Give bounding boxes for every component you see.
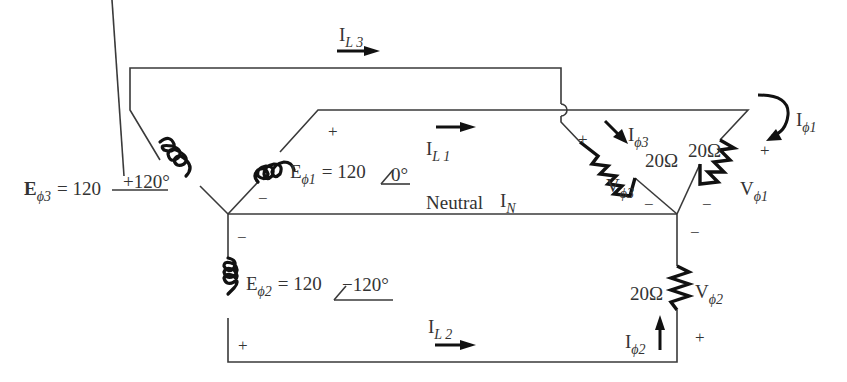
resistor-phi2 [671, 266, 689, 310]
arrow-I-phi2 [655, 315, 665, 350]
svg-text:−120°: −120° [342, 274, 389, 295]
svg-text:−: − [258, 189, 268, 208]
svg-text:Vϕ3: Vϕ3 [606, 175, 634, 201]
svg-text:20Ω: 20Ω [645, 150, 678, 171]
source-coil-phi2 [224, 258, 237, 294]
svg-text:−: − [644, 195, 654, 214]
label-I-N: IN [500, 190, 516, 216]
line-2-wire [228, 310, 677, 362]
svg-text:Eϕ2= 120: Eϕ2= 120 [246, 273, 322, 299]
svg-text:+: + [578, 130, 588, 149]
svg-text:IN: IN [500, 190, 516, 216]
line-3-wire [130, 68, 561, 160]
three-phase-circuit-diagram: Eϕ3= 120 +120° Eϕ1= 120 0° + − Eϕ2= 120 … [0, 0, 847, 382]
svg-text:IL 2: IL 2 [428, 316, 452, 342]
load-label-phi1: Iϕ1 20Ω Vϕ1 + − [688, 109, 817, 214]
svg-text:−: − [690, 223, 700, 242]
source-3-lead [200, 186, 228, 214]
source-label-phi2: Eϕ2= 120 −120° − + [237, 228, 393, 355]
svg-text:+: + [695, 328, 705, 347]
arrow-I-L1 [436, 122, 476, 132]
svg-text:+120°: +120° [123, 171, 170, 192]
svg-text:20Ω: 20Ω [630, 283, 663, 304]
neutral-label: Neutral [426, 192, 483, 213]
load-3-lower-lead [635, 178, 677, 214]
svg-text:Iϕ3: Iϕ3 [628, 124, 649, 150]
svg-text:Iϕ1: Iϕ1 [796, 109, 817, 135]
svg-text:Vϕ1: Vϕ1 [740, 178, 768, 204]
label-I-L2: IL 2 [428, 316, 452, 342]
line-1-wire [280, 110, 748, 152]
svg-text:Neutral: Neutral [426, 192, 483, 213]
svg-text:Vϕ2: Vϕ2 [695, 281, 723, 307]
label-I-L1: IL 1 [426, 138, 450, 164]
svg-text:Eϕ3= 120: Eϕ3= 120 [24, 178, 101, 204]
svg-text:Eϕ1= 120: Eϕ1= 120 [290, 161, 366, 187]
svg-text:−: − [702, 195, 712, 214]
svg-text:Iϕ2: Iϕ2 [625, 331, 646, 357]
label-I-L3: IL 3 [339, 24, 363, 50]
load-label-phi3: Iϕ3 20Ω Vϕ3 + − [578, 124, 678, 214]
source-coil-phi1 [255, 162, 294, 182]
svg-text:IL 1: IL 1 [426, 138, 450, 164]
arrow-I-phi3 [605, 121, 628, 144]
load-1-lower-lead [677, 164, 700, 214]
svg-text:0°: 0° [391, 164, 408, 185]
arrow-I-phi1 [758, 95, 788, 141]
source-1-lead [228, 182, 258, 214]
angle-symbol [112, 0, 124, 176]
svg-text:20Ω: 20Ω [688, 140, 721, 161]
svg-text:+: + [238, 336, 248, 355]
svg-text:+: + [760, 141, 770, 160]
svg-text:IL 3: IL 3 [339, 24, 363, 50]
svg-text:+: + [328, 122, 338, 141]
source-label-phi3: Eϕ3= 120 +120° [24, 0, 170, 204]
svg-text:−: − [237, 228, 247, 247]
wires [130, 68, 748, 362]
